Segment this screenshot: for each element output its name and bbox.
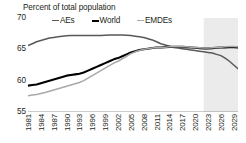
x-tick-label: 2020 [191,114,200,131]
x-tick-label: 2026 [217,114,226,131]
x-axis-labels: 1981198419871990199319961999200220052008… [28,114,238,143]
x-tick-label: 2002 [114,114,123,131]
chart-container: Percent of total population AEs World EM… [0,0,246,143]
plot-area [28,18,238,112]
x-tick-label: 2005 [127,114,136,131]
x-tick-label: 2017 [178,114,187,131]
x-tick-label: 1981 [24,114,33,131]
y-tick-label: 60 [9,76,26,85]
x-tick-label: 1984 [37,114,46,131]
y-tick-label: 65 [9,44,26,53]
x-tick-label: 1996 [88,114,97,131]
x-tick-label: 2014 [165,114,174,131]
x-tick-label: 2008 [140,114,149,131]
x-tick-label: 1987 [50,114,59,131]
x-tick-label: 1990 [63,114,72,131]
x-tick-label: 2023 [204,114,213,131]
plot-svg [28,18,238,112]
x-tick-label: 2029 [230,114,239,131]
x-tick-label: 1999 [101,114,110,131]
y-tick-label: 70 [9,13,26,22]
x-tick-label: 1993 [75,114,84,131]
x-tick-label: 2011 [153,114,162,130]
